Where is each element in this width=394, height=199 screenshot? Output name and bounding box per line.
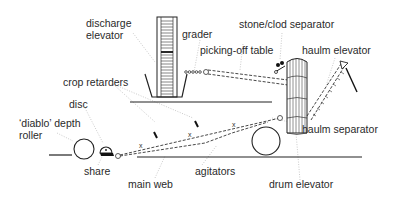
- label-grader: grader: [182, 28, 213, 40]
- label-disc: disc: [69, 98, 88, 110]
- label-crop-retarders: crop retarders: [63, 76, 128, 88]
- labels: discharge elevator grader stone/clod sep…: [19, 17, 378, 190]
- harvester-diagram: x x x discharge elevator grader stone/cl…: [0, 0, 394, 199]
- label-picking-off-table: picking-off table: [200, 44, 274, 56]
- stone-clod-separator: [275, 61, 286, 74]
- svg-text:x: x: [139, 142, 143, 149]
- agitator-marks: x x x: [139, 121, 236, 149]
- label-stone-clod-separator: stone/clod separator: [239, 18, 335, 30]
- share: [100, 147, 114, 156]
- label-diablo-depth-roller-1: ‘diablo’ depth: [19, 117, 81, 129]
- label-drum-elevator: drum elevator: [269, 178, 334, 190]
- label-share: share: [84, 165, 110, 177]
- label-main-web: main web: [128, 178, 173, 190]
- label-haulm-elevator: haulm elevator: [302, 44, 371, 56]
- label-haulm-separator: haulm separator: [302, 123, 378, 135]
- diablo-depth-roller: [74, 139, 94, 159]
- label-discharge-elevator-2: elevator: [86, 29, 124, 41]
- grader-rollers: [185, 71, 202, 74]
- haulm-elevator: [307, 61, 357, 120]
- label-agitators: agitators: [195, 165, 235, 177]
- label-diablo-depth-roller-2: roller: [19, 129, 43, 141]
- svg-text:x: x: [188, 131, 192, 138]
- svg-text:x: x: [232, 121, 236, 128]
- drum-wheel: [252, 127, 280, 155]
- label-discharge-elevator-1: discharge: [86, 17, 132, 29]
